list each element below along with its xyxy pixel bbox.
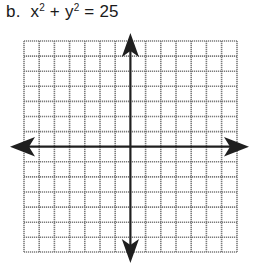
coordinate-grid: [0, 0, 253, 269]
